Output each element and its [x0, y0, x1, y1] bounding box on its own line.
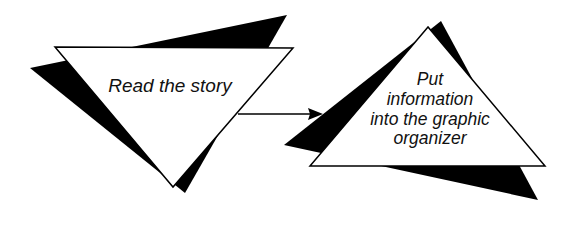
connector-arrow [238, 108, 323, 120]
step2-label-line-3: into the graphic [350, 110, 510, 130]
step2-label-line-1: Put [350, 70, 510, 90]
step2-label-line-2: information [350, 90, 510, 110]
step2-label: Put information into the graphic organiz… [350, 70, 510, 149]
step2-label-line-4: organizer [350, 129, 510, 149]
step1-triangle-shape [55, 47, 293, 187]
step1-label: Read the story [95, 75, 245, 96]
